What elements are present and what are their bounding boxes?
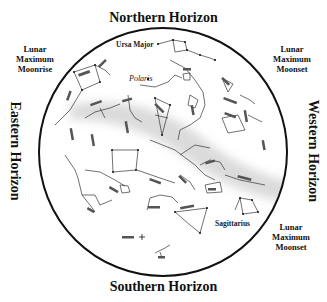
- note-line: Maximum: [267, 54, 317, 64]
- southern-horizon-label: Southern Horizon: [100, 279, 227, 295]
- polaris-label: Polaris: [129, 74, 153, 83]
- note-line: Maximum: [266, 232, 316, 242]
- marker-crosses: [139, 234, 145, 240]
- ursa-major-label: Ursa Major: [116, 40, 154, 49]
- horizon-circle: [39, 28, 287, 276]
- note-line: Lunar: [267, 44, 317, 54]
- note-line: Moonset: [266, 242, 316, 252]
- lunar-maximum-moonset-north-note: Lunar Maximum Moonset: [267, 44, 317, 74]
- lunar-maximum-moonrise-note: Lunar Maximum Moonrise: [10, 44, 60, 74]
- note-line: Lunar: [10, 44, 60, 54]
- note-line: Moonrise: [10, 64, 60, 74]
- note-line: Maximum: [10, 54, 60, 64]
- western-horizon-label: Western Horizon: [305, 96, 321, 206]
- lunar-maximum-moonset-south-note: Lunar Maximum Moonset: [266, 222, 316, 252]
- eastern-horizon-label: Eastern Horizon: [7, 96, 23, 206]
- note-line: Moonset: [267, 64, 317, 74]
- constellation-name-labels: [66, 59, 266, 259]
- northern-horizon-label: Northern Horizon: [97, 10, 230, 26]
- note-line: Lunar: [266, 222, 316, 232]
- sagittarius-label: Sagittarius: [215, 219, 250, 228]
